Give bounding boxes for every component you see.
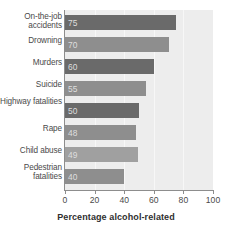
category-label: On-the-job accidents <box>0 12 62 31</box>
gridline-80 <box>183 10 184 190</box>
bar-value-label: 49 <box>68 150 78 160</box>
x-tick-mark <box>124 191 125 194</box>
bar-value-label: 70 <box>68 40 78 50</box>
category-label: Suicide <box>0 80 62 89</box>
x-tick-label: 100 <box>198 195 228 205</box>
bar: 70 <box>65 37 169 52</box>
x-tick-label: 60 <box>139 195 169 205</box>
x-tick-label: 20 <box>80 195 110 205</box>
x-tick-mark <box>183 191 184 194</box>
category-label: Pedestrian fatalities <box>0 163 62 182</box>
x-axis-title: Percentage alcohol-related <box>0 212 232 222</box>
category-label: Child abuse <box>0 146 62 155</box>
category-label: Drowning <box>0 36 62 45</box>
category-label: Murders <box>0 58 62 67</box>
x-tick-mark <box>154 191 155 194</box>
x-tick-mark <box>95 191 96 194</box>
plot-area: 75 70 60 55 50 48 49 40 <box>65 10 213 190</box>
bar-value-label: 55 <box>68 84 78 94</box>
bar: 40 <box>65 169 124 184</box>
x-tick-mark <box>213 191 214 194</box>
x-axis-spine <box>65 190 214 191</box>
bar-value-label: 60 <box>68 62 78 72</box>
x-tick-label: 80 <box>168 195 198 205</box>
x-tick-label: 40 <box>109 195 139 205</box>
category-label: Highway fatalities <box>0 97 62 106</box>
x-tick-mark <box>65 191 66 194</box>
bar: 48 <box>65 125 136 140</box>
bar: 55 <box>65 81 146 96</box>
bar: 50 <box>65 103 139 118</box>
category-axis: On-the-job accidents Drowning Murders Su… <box>0 10 62 190</box>
y-axis-spine <box>64 10 65 191</box>
bar: 60 <box>65 59 154 74</box>
bar-value-label: 48 <box>68 128 78 138</box>
bar-value-label: 50 <box>68 106 78 116</box>
x-tick-label: 0 <box>50 195 80 205</box>
bar-chart: On-the-job accidents Drowning Murders Su… <box>0 0 232 234</box>
bar: 49 <box>65 147 138 162</box>
category-label: Rape <box>0 124 62 133</box>
bar: 75 <box>65 15 176 30</box>
bar-value-label: 75 <box>68 18 78 28</box>
bar-value-label: 40 <box>68 172 78 182</box>
